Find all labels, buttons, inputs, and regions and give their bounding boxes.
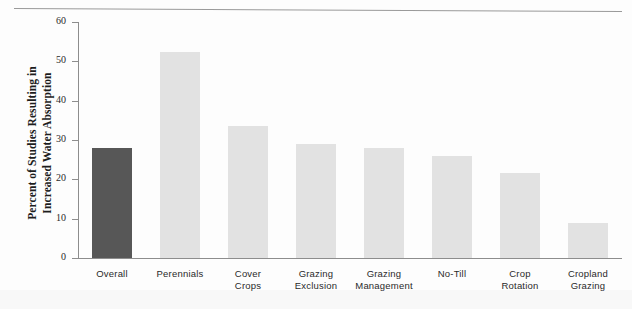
x-axis-label-2: Cover Crops xyxy=(214,268,282,292)
y-tick-label: 0 xyxy=(61,251,66,262)
y-tick-20: 20 xyxy=(72,179,78,180)
y-tick-label: 20 xyxy=(56,172,66,183)
x-axis-label-5: No-Till xyxy=(418,268,486,280)
scan-artifact xyxy=(0,290,632,309)
x-axis-label-7: Cropland Grazing xyxy=(554,268,622,292)
bar-0 xyxy=(92,148,132,258)
y-tick-label: 40 xyxy=(56,94,66,105)
y-tick-10: 10 xyxy=(72,219,78,220)
x-axis-line xyxy=(78,258,622,259)
x-axis-label-1: Perennials xyxy=(146,268,214,280)
bar-1 xyxy=(160,52,200,259)
y-tick-label: 30 xyxy=(56,133,66,144)
y-axis-title: Percent of Studies Resulting in Increase… xyxy=(25,18,55,268)
bar-6 xyxy=(500,173,540,258)
x-axis-label-3: Grazing Exclusion xyxy=(282,268,350,292)
y-tick-40: 40 xyxy=(72,101,78,102)
y-tick-label: 10 xyxy=(56,212,66,223)
y-tick-label: 60 xyxy=(56,15,66,26)
y-axis-line xyxy=(78,22,79,258)
x-axis-label-6: Crop Rotation xyxy=(486,268,554,292)
y-tick-30: 30 xyxy=(72,140,78,141)
bar-5 xyxy=(432,156,472,258)
bar-2 xyxy=(228,126,268,258)
x-axis-label-4: Grazing Management xyxy=(350,268,418,292)
chart-page: Percent of Studies Resulting in Increase… xyxy=(0,0,632,309)
plot-area: 0102030405060 OverallPerennialsCover Cro… xyxy=(78,22,622,258)
y-tick-0: 0 xyxy=(72,258,78,259)
page-top-rule xyxy=(14,8,622,12)
bar-7 xyxy=(568,223,608,258)
y-tick-60: 60 xyxy=(72,22,78,23)
bar-4 xyxy=(364,148,404,258)
bar-3 xyxy=(296,144,336,258)
x-axis-label-0: Overall xyxy=(78,268,146,280)
y-tick-50: 50 xyxy=(72,61,78,62)
y-tick-label: 50 xyxy=(56,54,66,65)
